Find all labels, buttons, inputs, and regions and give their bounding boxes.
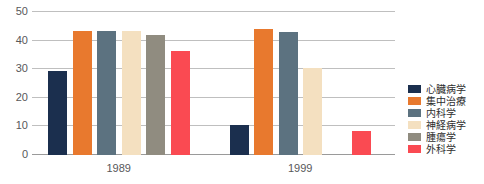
bar-1999-内科学 xyxy=(279,32,298,155)
legend-swatch-icon xyxy=(408,97,421,105)
bar-1989-内科学 xyxy=(97,31,116,155)
legend-label: 内科学 xyxy=(426,108,456,119)
legend-swatch-icon xyxy=(408,85,421,93)
legend-item-0: 心臓病学 xyxy=(408,83,484,95)
bar-1999-外科学 xyxy=(352,131,371,155)
x-tick-label-1999: 1999 xyxy=(270,162,330,174)
y-tick-label-10: 10 xyxy=(0,120,28,131)
bar-1989-腫瘍学 xyxy=(146,35,165,155)
legend-item-5: 外科学 xyxy=(408,143,484,155)
bar-1989-心臓病学 xyxy=(48,71,67,155)
legend-label: 集中治療 xyxy=(426,96,466,107)
x-tick-label-1989: 1989 xyxy=(89,162,149,174)
y-tick-label-30: 30 xyxy=(0,63,28,74)
bar-1989-外科学 xyxy=(171,51,190,155)
legend-item-3: 神経病学 xyxy=(408,119,484,131)
bars-layer xyxy=(32,12,395,155)
y-tick-label-40: 40 xyxy=(0,35,28,46)
bar-1999-神経病学 xyxy=(303,68,322,155)
legend-label: 腫瘍学 xyxy=(426,132,456,143)
legend-item-1: 集中治療 xyxy=(408,95,484,107)
bar-chart: 01020304050 19891999 心臓病学集中治療内科学神経病学腫瘍学外… xyxy=(0,0,484,184)
legend-label: 心臓病学 xyxy=(426,84,466,95)
bar-1999-心臓病学 xyxy=(230,125,249,155)
plot-area xyxy=(32,12,395,155)
legend-item-4: 腫瘍学 xyxy=(408,131,484,143)
bar-1999-集中治療 xyxy=(254,29,273,155)
legend-swatch-icon xyxy=(408,133,421,141)
chart-legend: 心臓病学集中治療内科学神経病学腫瘍学外科学 xyxy=(408,83,484,155)
legend-label: 神経病学 xyxy=(426,120,466,131)
legend-swatch-icon xyxy=(408,109,421,117)
y-tick-label-50: 50 xyxy=(0,6,28,17)
y-tick-label-0: 0 xyxy=(0,149,28,160)
legend-swatch-icon xyxy=(408,121,421,129)
y-axis-tick-labels: 01020304050 xyxy=(0,12,28,155)
bar-1989-神経病学 xyxy=(122,31,141,155)
legend-swatch-icon xyxy=(408,145,421,153)
bar-1989-集中治療 xyxy=(73,31,92,155)
legend-item-2: 内科学 xyxy=(408,107,484,119)
y-tick-label-20: 20 xyxy=(0,92,28,103)
legend-label: 外科学 xyxy=(426,144,456,155)
